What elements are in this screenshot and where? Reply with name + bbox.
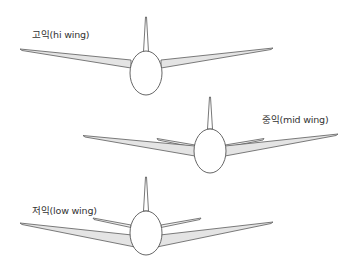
mid-fuselage: [194, 129, 226, 173]
mid-wing-aircraft: [83, 97, 338, 173]
low-left-stabilizer: [93, 218, 131, 228]
wing-position-diagram: 고익(hi wing) 중익(mid wing) 저익(low wing): [0, 0, 356, 264]
low-left-wing: [20, 223, 140, 248]
hi-right-wing: [161, 48, 273, 68]
hi-wing-label: 고익(hi wing): [32, 27, 89, 41]
low-right-stabilizer: [161, 218, 201, 228]
mid-right-wing: [225, 134, 338, 156]
hi-fuselage: [130, 51, 162, 95]
mid-vertical-fin: [208, 97, 213, 129]
hi-left-wing: [20, 49, 131, 68]
mid-wing-label: 중익(mid wing): [262, 112, 328, 126]
mid-left-wing: [83, 136, 195, 157]
hi-vertical-fin: [144, 17, 149, 52]
low-vertical-fin: [144, 177, 149, 211]
low-fuselage: [130, 211, 162, 255]
low-wing-label: 저익(low wing): [32, 203, 97, 217]
